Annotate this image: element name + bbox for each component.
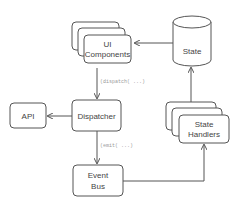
dispatcher-label: Dispatcher xyxy=(77,112,116,121)
dispatcher-node[interactable]: Dispatcher xyxy=(72,100,121,131)
api-label: API xyxy=(22,112,35,121)
event-bus-label-1: Event xyxy=(88,171,109,180)
architecture-diagram: UI Components State Dispatcher API Event… xyxy=(0,0,241,205)
state-handlers-label-1: State xyxy=(195,120,214,129)
ui-components-node[interactable]: UI Components xyxy=(72,22,131,63)
edge-eventbus-to-handlers xyxy=(123,145,204,181)
state-handlers-label-2: Handlers xyxy=(188,130,220,139)
ui-components-label-1: UI xyxy=(104,40,112,49)
edge-label-dispatch: (dispatch( ...) xyxy=(100,79,145,85)
state-node[interactable]: State xyxy=(173,16,211,66)
state-handlers-node[interactable]: State Handlers xyxy=(166,102,229,143)
api-node[interactable]: API xyxy=(10,103,46,128)
event-bus-label-2: Bus xyxy=(91,182,105,191)
ui-components-label-2: Components xyxy=(85,50,130,59)
edge-label-emit: (emit( ...) xyxy=(100,143,133,149)
event-bus-node[interactable]: Event Bus xyxy=(73,165,123,196)
state-label: State xyxy=(183,47,202,56)
